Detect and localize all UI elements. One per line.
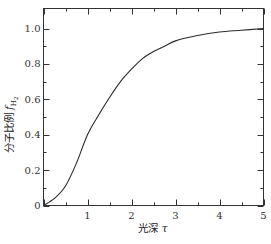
major-ticks [44,9,265,207]
y-tick-label: 0 [34,200,40,211]
y-tick-label: 0.4 [25,129,41,140]
y-tick-label: 0.6 [25,94,41,105]
line-chart: 1234500.20.40.60.81.0 光深 τ 分子比例 fH2 [0,0,271,244]
x-tick-label: 3 [172,210,178,221]
y-axis-label: 分子比例 fH2 [3,97,19,154]
y-tick-label: 0.2 [25,165,41,176]
x-axis-label: 光深 τ [138,222,167,234]
x-tick-label: 1 [84,210,90,221]
x-tick-label: 4 [216,210,222,221]
x-tick-label: 2 [128,210,134,221]
x-tick-label: 5 [260,210,266,221]
plot-frame [44,9,264,206]
fh2-curve [44,29,264,206]
y-tick-label: 0.8 [25,58,41,69]
tick-labels: 1234500.20.40.60.81.0 [25,23,267,221]
minor-ticks [44,9,264,206]
y-tick-label: 1.0 [25,23,41,34]
